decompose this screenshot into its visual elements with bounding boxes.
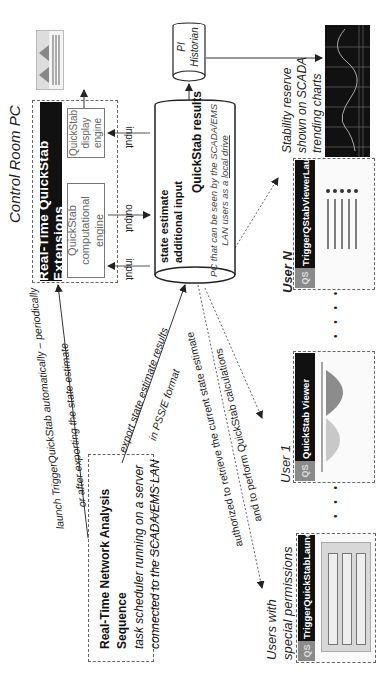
scheduler-line2: task scheduler running on a server: [131, 455, 148, 649]
user-label-special: Users with special permissions: [264, 547, 297, 660]
results-note-line1: PC that can be seen by the SCADA/EMS: [208, 103, 219, 278]
user-label-special-line2: special permissions: [280, 547, 296, 660]
viewer-launchpad-list: [294, 157, 376, 289]
launchpad-button-3[interactable]: [356, 553, 366, 645]
scada-caption-line2: shown on SCADA: [295, 57, 310, 153]
user-label-special-line1: Users with: [264, 547, 280, 660]
launchpad-button-1[interactable]: [328, 553, 338, 645]
results-state-estimate: state estimate: [158, 190, 170, 263]
launchpad-panel: [321, 542, 371, 652]
diagram-canvas: Control Room PC Real-Time QuickStab Exte…: [0, 0, 386, 678]
user-window-special[interactable]: QS TriggerQuickStabLaunchPad: [296, 533, 376, 663]
results-note: PC that can be seen by the SCADA/EMS LAN…: [208, 103, 230, 278]
pi-historian-label: PI Historian: [176, 22, 201, 72]
user-window-1[interactable]: QS QuickStab Viewer: [293, 351, 375, 483]
display-engine-box: QuickStab display engine: [67, 108, 105, 158]
output-label: output: [124, 204, 135, 232]
scada-caption: Stability reserve shown on SCADA trendin…: [280, 57, 325, 153]
computational-engine-box: QuickStab computational engine: [67, 183, 105, 278]
display-thumbnail: [36, 30, 64, 90]
historian-label: Historian: [189, 22, 202, 72]
results-note-line2: LAN users as a local drive: [219, 103, 230, 278]
user-label-1: User 1: [278, 445, 293, 483]
control-room-title: Control Room PC: [6, 105, 23, 223]
scada-caption-line1: Stability reserve: [280, 57, 295, 153]
results-additional-input: additional input: [172, 181, 184, 263]
launchpad-button-2[interactable]: [342, 553, 352, 645]
ellipsis-2: • • • •: [330, 288, 341, 338]
app-title-bar-special: QS TriggerQuickStabLaunchPad: [298, 535, 315, 661]
input-label-2: input: [124, 126, 135, 148]
pi-label: PI: [176, 22, 189, 72]
scheduler-line1: Real-Time Network Analysis Sequence: [97, 455, 131, 649]
user-window-n[interactable]: QS TriggerQStabViewerLaunchPad: [293, 158, 375, 290]
input-label-1: input: [124, 258, 135, 280]
results-note-prefix: LAN users as a: [219, 178, 230, 246]
extensions-title-bar: Real-Time QuickStab Extensions: [40, 102, 62, 281]
scada-trending-chart: [325, 25, 370, 157]
results-title: QuickStab results: [190, 91, 204, 193]
scheduler-box: Real-Time Network Analysis Sequence task…: [88, 454, 154, 662]
qs-logo-icon: QS: [298, 641, 315, 661]
viewer-chart: [294, 350, 376, 482]
scada-caption-line3: trending charts: [310, 57, 325, 153]
scheduler-line3: connected to the SCADA/EMS LAN: [147, 455, 164, 649]
app-title-special: TriggerQuickStabLaunchPad: [301, 535, 312, 639]
local-drive-link[interactable]: local drive: [219, 135, 230, 178]
